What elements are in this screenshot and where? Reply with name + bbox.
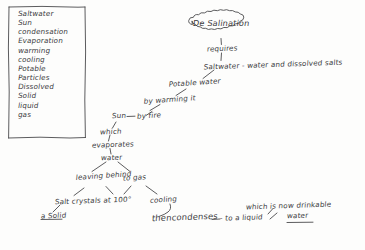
node-by-fire: by fire <box>136 111 161 120</box>
connector-leaving-to-at100 <box>106 187 113 195</box>
node-to-a-liquid: - to a liquid <box>220 213 264 222</box>
node-evaporates: evaporates <box>92 140 135 149</box>
connector-gas-to-cooling <box>146 186 157 194</box>
node-requires: requires <box>207 44 238 53</box>
node-saltwater-definition: Saltwater - water and dissolved salts <box>203 59 342 71</box>
diagram-title: De Salination <box>192 19 250 28</box>
vocab-item: Solid <box>17 92 68 100</box>
vocabulary-box: Saltwater Sun condensation Evaporation w… <box>8 6 86 138</box>
node-sun: Sun <box>112 112 127 120</box>
connector-liquid-to-drinkable <box>270 213 277 219</box>
vocab-item: condensation <box>17 28 68 36</box>
connector-leaving-to-crystals <box>74 188 84 196</box>
node-potable-water: Potable water <box>168 77 221 88</box>
node-a-solid: a Solid <box>41 212 67 220</box>
node-salt-crystals: Salt crystals at 100° <box>55 196 132 206</box>
vocab-item: Potable <box>17 65 68 73</box>
node-water: water <box>101 154 123 162</box>
vocab-item: Evaporation <box>17 37 68 45</box>
node-by-warming-it: by warming it <box>143 94 196 105</box>
node-which: which <box>100 128 122 136</box>
vocab-item: Saltwater <box>17 10 68 18</box>
vocab-item: Sun <box>17 19 68 27</box>
paper-sheet: Saltwater Sun condensation Evaporation w… <box>0 0 365 250</box>
vocab-item: Particles <box>17 74 68 82</box>
connector-requires-to-saltwater <box>221 53 222 61</box>
vocab-item: gas <box>17 111 68 119</box>
vocab-item: cooling <box>17 56 68 64</box>
node-drinkable-water: water <box>287 212 309 220</box>
vocab-item: Dissolved <box>17 83 68 91</box>
node-cooling: cooling <box>149 195 177 204</box>
node-which-is-now-drinkable: which is now drinkable <box>246 201 332 212</box>
connector-gas-to-at100 <box>124 186 131 194</box>
node-to-gas: to gas <box>122 173 146 182</box>
vocabulary-list: Saltwater Sun condensation Evaporation w… <box>18 10 68 120</box>
node-then-condenses: thencondenses <box>151 212 218 223</box>
vocab-item: liquid <box>17 102 68 110</box>
vocab-item: warming <box>17 47 68 55</box>
